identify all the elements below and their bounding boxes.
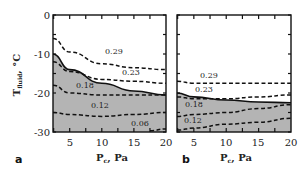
- curve-029: [177, 81, 291, 83]
- x-tick-b-5: 5: [191, 137, 197, 148]
- panel-b: 0.29 0.23 0.18 0.12 5 10 15 20 Pc, Pa b: [177, 15, 297, 166]
- panel-label-a: a: [15, 153, 22, 166]
- curve-label-a-018: 0.18: [76, 81, 94, 90]
- x-axis-title-a: Pc, Pa: [96, 152, 128, 164]
- x-tick-b-15: 15: [252, 137, 265, 148]
- figure: 0.29 0.23 0.18 0.12 0.06 0 -10 -20 -30 5…: [0, 0, 306, 179]
- x-axis-title-b: Pc, Pa: [220, 152, 252, 164]
- panel-label-b: b: [182, 153, 190, 166]
- x-tick-a-20: 20: [160, 137, 173, 148]
- y-tick-neg30: -30: [34, 127, 50, 138]
- x-tick-b-10: 10: [220, 137, 233, 148]
- y-tick-neg20: -20: [34, 88, 50, 99]
- curve-label-a-023: 0.23: [122, 68, 140, 77]
- curve-label-b-012: 0.12: [184, 116, 202, 125]
- curve-label-b-018: 0.18: [185, 100, 203, 109]
- panel-a: 0.29 0.23 0.18 0.12 0.06 0 -10 -20 -30 5…: [11, 10, 172, 166]
- curve-label-b-029: 0.29: [200, 71, 218, 80]
- curve-label-b-023: 0.23: [195, 85, 213, 94]
- x-tick-b-20: 20: [285, 137, 298, 148]
- x-tick-a-5: 5: [67, 137, 73, 148]
- curve-label-a-029: 0.29: [105, 47, 123, 56]
- x-tick-a-10: 10: [96, 137, 109, 148]
- curve-label-a-012: 0.12: [91, 101, 109, 110]
- shaded-region-b: [177, 93, 291, 132]
- y-axis-title: Tfluid, °C: [11, 54, 23, 97]
- y-tick-0: 0: [44, 10, 50, 21]
- curve-label-a-006: 0.06: [131, 119, 149, 128]
- x-tick-a-15: 15: [128, 137, 141, 148]
- y-tick-neg10: -10: [34, 49, 50, 60]
